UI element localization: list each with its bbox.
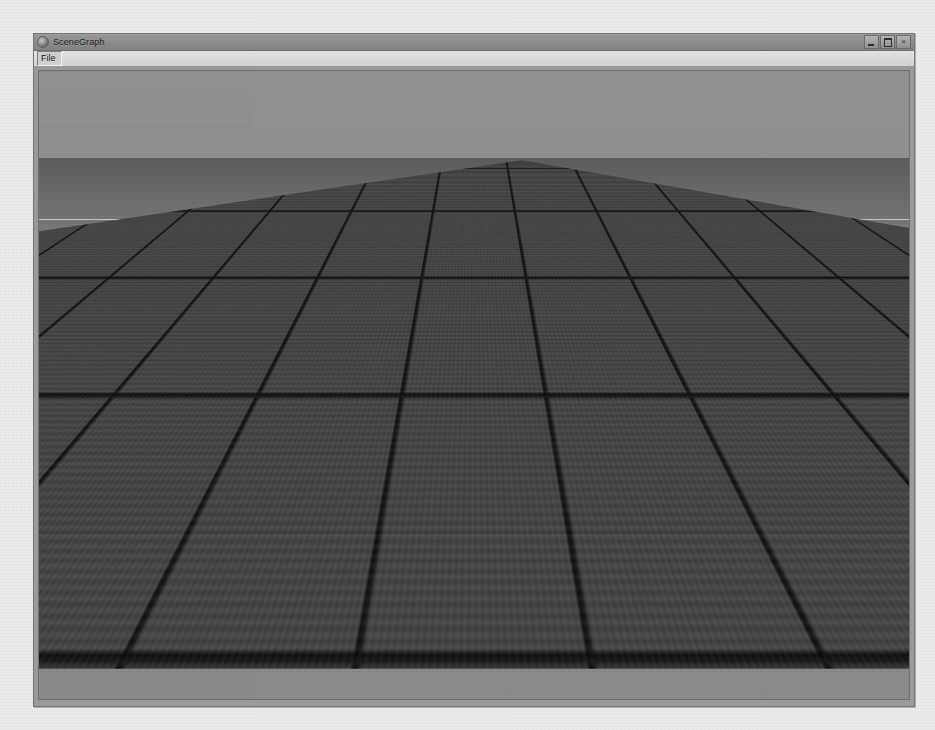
label-your-target: Your Target bbox=[517, 477, 590, 492]
menu-bar: File bbox=[34, 51, 914, 67]
window-title: SceneGraph bbox=[53, 37, 864, 47]
maximize-icon bbox=[884, 38, 892, 47]
teapot bbox=[679, 219, 795, 295]
label-the-cross-product: The Cross Product bbox=[366, 352, 486, 367]
label-your-direction: Your Direction bbox=[291, 437, 382, 452]
window-controls: × bbox=[864, 35, 911, 49]
minimize-button[interactable] bbox=[864, 35, 879, 49]
minimize-icon bbox=[868, 44, 874, 46]
application-window: SceneGraph × File bbox=[33, 33, 915, 707]
menu-item-file[interactable]: File bbox=[37, 51, 62, 66]
app-icon bbox=[37, 36, 49, 48]
maximize-button[interactable] bbox=[880, 35, 895, 49]
screenshot-root: SceneGraph × File bbox=[0, 0, 935, 730]
close-button[interactable]: × bbox=[896, 35, 911, 49]
3d-viewport[interactable]: The Cross Product Your Direction Your Ta… bbox=[38, 70, 910, 700]
close-icon: × bbox=[901, 37, 906, 46]
window-body: The Cross Product Your Direction Your Ta… bbox=[34, 67, 914, 706]
title-bar[interactable]: SceneGraph × bbox=[34, 34, 914, 51]
